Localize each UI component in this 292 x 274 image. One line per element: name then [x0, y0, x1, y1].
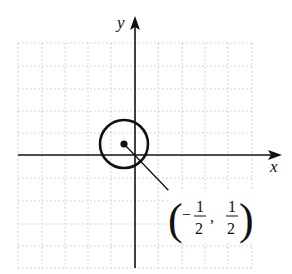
- label-open-paren: (: [168, 195, 183, 244]
- label-y-numerator: 1: [228, 198, 236, 215]
- label-y-denominator: 2: [227, 220, 235, 237]
- label-minus-sign: −: [182, 206, 191, 223]
- label-close-paren: ): [239, 195, 254, 244]
- coordinate-plane: x y ( − 1 2 , 1 2 ): [0, 0, 292, 274]
- label-x-numerator: 1: [196, 198, 204, 215]
- y-axis: [130, 16, 140, 268]
- y-axis-label: y: [115, 13, 125, 32]
- label-x-denominator: 2: [195, 220, 203, 237]
- center-label: ( − 1 2 , 1 2 ): [168, 190, 254, 244]
- x-axis-label: x: [269, 157, 278, 176]
- x-axis: [18, 150, 282, 160]
- label-separator: ,: [210, 208, 214, 225]
